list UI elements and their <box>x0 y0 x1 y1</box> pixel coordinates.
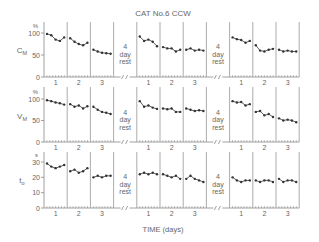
data-point <box>152 106 154 108</box>
x-tick-label: 2 <box>262 210 266 217</box>
axis-break-mark <box>122 206 124 210</box>
data-point <box>272 181 274 183</box>
data-series-line <box>140 37 157 47</box>
data-point <box>170 176 172 178</box>
panel-vm: 050100%VM4dayrest1234dayrest123123 <box>17 87 299 151</box>
data-point <box>202 181 204 183</box>
data-point <box>101 111 103 113</box>
y-tick-label: 50 <box>32 52 40 59</box>
data-point <box>139 35 141 37</box>
data-point <box>236 101 238 103</box>
data-point <box>69 103 71 105</box>
data-point <box>189 175 191 177</box>
data-point <box>278 178 280 180</box>
data-point <box>92 106 94 108</box>
x-tick-label: 1 <box>146 210 150 217</box>
data-point <box>263 50 265 52</box>
data-point <box>78 172 80 174</box>
data-point <box>86 105 88 107</box>
data-point <box>109 175 111 177</box>
data-point <box>63 103 65 105</box>
data-point <box>59 40 61 42</box>
data-point <box>162 173 164 175</box>
data-point <box>63 36 65 38</box>
data-point <box>240 39 242 41</box>
data-point <box>105 52 107 54</box>
data-point <box>50 165 52 167</box>
y-tick-label: 0 <box>36 74 40 81</box>
data-point <box>73 106 75 108</box>
data-point <box>156 173 158 175</box>
data-point <box>189 47 191 49</box>
data-point <box>282 50 284 52</box>
data-point <box>231 100 233 102</box>
data-point <box>179 111 181 113</box>
data-point <box>244 41 246 43</box>
data-point <box>170 107 172 109</box>
x-tick-label: 1 <box>239 144 243 151</box>
y-unit-label: % <box>33 89 39 95</box>
axis-break-mark <box>122 75 124 79</box>
data-point <box>101 52 103 54</box>
data-point <box>240 101 242 103</box>
data-point <box>69 170 71 172</box>
data-point <box>147 104 149 106</box>
panels-group: 050100%CM4dayrest1234dayrest123123050100… <box>17 22 299 217</box>
data-point <box>156 45 158 47</box>
data-point <box>272 48 274 50</box>
rest-label: 4 <box>123 43 127 50</box>
data-point <box>295 121 297 123</box>
data-point <box>240 181 242 183</box>
data-point <box>156 108 158 110</box>
x-tick-label: 3 <box>193 79 197 86</box>
x-tick-label: 1 <box>146 144 150 151</box>
rest-label: 4 <box>216 109 220 116</box>
data-point <box>143 40 145 42</box>
data-point <box>255 111 257 113</box>
axis-break-mark <box>218 140 220 144</box>
axis-break-mark <box>214 206 216 210</box>
data-point <box>54 38 56 40</box>
data-point <box>73 41 75 43</box>
axis-break-mark <box>214 140 216 144</box>
rest-label: 4 <box>216 43 220 50</box>
data-point <box>97 175 99 177</box>
data-point <box>255 179 257 181</box>
x-tick-label: 3 <box>193 210 197 217</box>
rest-label: rest <box>212 124 224 131</box>
data-point <box>231 176 233 178</box>
data-point <box>166 108 168 110</box>
data-point <box>259 181 261 183</box>
x-tick-label: 3 <box>286 144 290 151</box>
y-axis-label: VM <box>17 112 27 122</box>
axis-break-mark <box>218 206 220 210</box>
data-point <box>105 112 107 114</box>
data-point <box>259 110 261 112</box>
data-point <box>166 175 168 177</box>
x-tick-label: 3 <box>100 144 104 151</box>
x-tick-label: 2 <box>77 79 81 86</box>
x-tick-label: 3 <box>100 210 104 217</box>
y-tick-label: 0 <box>36 205 40 212</box>
x-tick-label: 3 <box>286 210 290 217</box>
data-point <box>46 99 48 101</box>
data-point <box>46 162 48 164</box>
data-point <box>73 168 75 170</box>
x-tick-label: 1 <box>54 210 58 217</box>
axis-break-mark <box>126 140 128 144</box>
data-point <box>231 36 233 38</box>
data-point <box>105 175 107 177</box>
panel-to: 0102030sto4dayrest1234dayrest123123 <box>19 152 299 217</box>
chart-title: CAT No.6 CCW <box>135 9 191 18</box>
y-tick-label: 30 <box>32 159 40 166</box>
data-point <box>291 179 293 181</box>
data-point <box>179 178 181 180</box>
data-point <box>295 50 297 52</box>
data-point <box>268 179 270 181</box>
x-tick-label: 2 <box>262 79 266 86</box>
axis-break-mark <box>214 75 216 79</box>
y-unit-label: s <box>35 152 38 158</box>
data-point <box>263 179 265 181</box>
rest-label: rest <box>119 58 131 65</box>
x-tick-label: 1 <box>54 144 58 151</box>
